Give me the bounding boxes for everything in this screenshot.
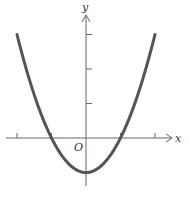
y-ticks <box>86 35 92 104</box>
y-axis-label: y <box>81 1 89 14</box>
origin-label: O <box>74 141 83 154</box>
parabola-graph: x y O <box>0 0 189 202</box>
x-axis-label: x <box>175 132 182 145</box>
